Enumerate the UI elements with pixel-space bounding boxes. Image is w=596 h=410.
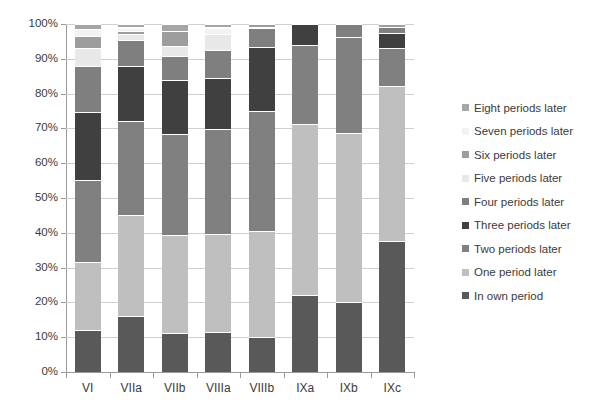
legend-item-label: Two periods later — [474, 243, 562, 255]
bar-segment[interactable] — [75, 66, 101, 112]
x-axis-tick-mark — [371, 373, 372, 378]
x-axis-tick-label: VIIb — [153, 381, 197, 395]
bar-group[interactable] — [118, 24, 144, 372]
y-axis-tick-label: 80% — [6, 88, 58, 99]
bar-group[interactable] — [75, 24, 101, 372]
x-axis-tick-label: VIIIb — [240, 381, 284, 395]
bar-segment[interactable] — [118, 40, 144, 67]
y-axis-tick-mark — [61, 163, 66, 164]
x-axis-tick-label: VIIIa — [197, 381, 241, 395]
plot-area — [66, 24, 414, 372]
bar-segment[interactable] — [336, 302, 362, 372]
legend-item-label: Five periods later — [474, 172, 562, 184]
bar-segment[interactable] — [162, 56, 188, 80]
bar-stack — [249, 24, 275, 372]
legend-color-swatch-icon — [462, 292, 469, 299]
bar-segment[interactable] — [379, 241, 405, 372]
legend-color-swatch-icon — [462, 128, 469, 135]
y-axis-tick-label: 10% — [6, 331, 58, 342]
legend-item[interactable]: Three periods later — [462, 214, 594, 238]
bar-segment[interactable] — [292, 295, 318, 372]
bar-group[interactable] — [162, 24, 188, 372]
bar-segment[interactable] — [379, 24, 405, 27]
legend-item[interactable]: One period later — [462, 261, 594, 285]
bar-segment[interactable] — [162, 46, 188, 56]
bar-segment[interactable] — [162, 31, 188, 46]
legend-item[interactable]: In own period — [462, 284, 594, 308]
bar-segment[interactable] — [75, 112, 101, 180]
bar-segment[interactable] — [379, 33, 405, 48]
y-axis-tick-label: 30% — [6, 262, 58, 273]
bar-segment[interactable] — [205, 50, 231, 77]
bar-segment[interactable] — [336, 133, 362, 302]
bar-group[interactable] — [292, 24, 318, 372]
bar-stack — [336, 24, 362, 372]
bar-segment[interactable] — [162, 24, 188, 31]
bar-segment[interactable] — [379, 27, 405, 32]
legend-item[interactable]: Seven periods later — [462, 120, 594, 144]
y-axis-tick-mark — [61, 59, 66, 60]
bar-segment[interactable] — [118, 215, 144, 316]
bar-segment[interactable] — [75, 330, 101, 372]
bar-segment[interactable] — [162, 235, 188, 332]
bar-segment[interactable] — [205, 129, 231, 233]
x-axis-tick-mark — [414, 373, 415, 378]
legend-color-swatch-icon — [462, 151, 469, 158]
bar-segment[interactable] — [205, 34, 231, 50]
bar-segment[interactable] — [118, 28, 144, 31]
bar-segment[interactable] — [75, 180, 101, 262]
bar-segment[interactable] — [75, 48, 101, 66]
bar-segment[interactable] — [336, 24, 362, 37]
bar-segment[interactable] — [205, 332, 231, 372]
bar-segment[interactable] — [162, 333, 188, 372]
legend-item-label: One period later — [474, 266, 556, 278]
bar-segment[interactable] — [292, 24, 318, 45]
legend-item-label: Six periods later — [474, 149, 556, 161]
bar-segment[interactable] — [162, 134, 188, 235]
bar-segment[interactable] — [118, 316, 144, 372]
bar-segment[interactable] — [118, 31, 144, 34]
x-axis-tick-label: IXb — [327, 381, 371, 395]
bar-segment[interactable] — [249, 28, 275, 48]
legend-color-swatch-icon — [462, 104, 469, 111]
bar-segment[interactable] — [205, 234, 231, 332]
bar-segment[interactable] — [75, 29, 101, 36]
y-axis-tick-mark — [61, 337, 66, 338]
legend-item[interactable]: Four periods later — [462, 190, 594, 214]
bar-stack — [379, 24, 405, 372]
bar-segment[interactable] — [75, 24, 101, 29]
legend-item[interactable]: Five periods later — [462, 167, 594, 191]
bar-segment[interactable] — [379, 86, 405, 241]
bar-segment[interactable] — [249, 47, 275, 111]
legend-color-swatch-icon — [462, 175, 469, 182]
bar-group[interactable] — [336, 24, 362, 372]
bar-segment[interactable] — [118, 34, 144, 39]
bar-segment[interactable] — [205, 78, 231, 130]
bar-segment[interactable] — [205, 24, 231, 27]
bar-group[interactable] — [249, 24, 275, 372]
bar-stack — [118, 24, 144, 372]
bar-segment[interactable] — [118, 121, 144, 215]
bar-group[interactable] — [379, 24, 405, 372]
bar-segment[interactable] — [118, 66, 144, 121]
bar-segment[interactable] — [379, 48, 405, 86]
bar-segment[interactable] — [292, 45, 318, 124]
y-axis-tick-label: 90% — [6, 53, 58, 64]
y-axis-tick-label: 100% — [6, 18, 58, 29]
bar-segment[interactable] — [75, 262, 101, 331]
legend-item[interactable]: Six periods later — [462, 143, 594, 167]
bar-segment[interactable] — [118, 24, 144, 27]
bar-segment[interactable] — [292, 124, 318, 296]
bar-segment[interactable] — [336, 37, 362, 133]
legend-item-label: Eight periods later — [474, 102, 567, 114]
bar-segment[interactable] — [249, 111, 275, 231]
bar-segment[interactable] — [205, 28, 231, 35]
bar-segment[interactable] — [249, 24, 275, 27]
bar-segment[interactable] — [249, 337, 275, 372]
bar-segment[interactable] — [249, 231, 275, 337]
bar-group[interactable] — [205, 24, 231, 372]
legend-item[interactable]: Two periods later — [462, 237, 594, 261]
legend-item[interactable]: Eight periods later — [462, 96, 594, 120]
bar-segment[interactable] — [162, 80, 188, 134]
bar-segment[interactable] — [75, 36, 101, 47]
